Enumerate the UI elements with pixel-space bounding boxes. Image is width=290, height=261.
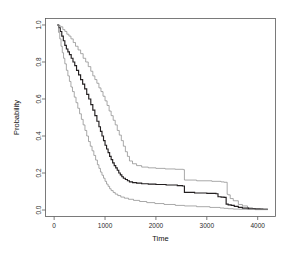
x-axis-title: Time (152, 234, 168, 243)
series-survival-estimate (57, 25, 268, 209)
y-tick-label: 0.2 (35, 168, 42, 177)
y-axis-ticks: 0.00.20.40.60.81.0 (35, 20, 46, 214)
x-tick-label: 4000 (250, 222, 265, 229)
series-lower-confidence-bound (57, 25, 268, 210)
chart-series (57, 25, 268, 210)
x-axis-ticks: 01000200030004000 (52, 217, 265, 230)
x-tick-label: 3000 (200, 222, 215, 229)
x-tick-label: 2000 (149, 222, 164, 229)
y-tick-label: 0.6 (35, 94, 42, 103)
x-tick-label: 0 (52, 222, 56, 229)
x-tick-label: 1000 (98, 222, 113, 229)
series-upper-confidence-bound (57, 25, 268, 209)
plot-frame (46, 19, 276, 217)
y-tick-label: 0.0 (35, 205, 42, 214)
y-tick-label: 1.0 (35, 20, 42, 29)
chart-canvas: 01000200030004000 0.00.20.40.60.81.0 Tim… (0, 0, 290, 261)
y-tick-label: 0.4 (35, 131, 42, 140)
survival-plot: 01000200030004000 0.00.20.40.60.81.0 Tim… (0, 0, 290, 261)
y-tick-label: 0.8 (35, 57, 42, 66)
y-axis-title: Probability (12, 100, 21, 135)
